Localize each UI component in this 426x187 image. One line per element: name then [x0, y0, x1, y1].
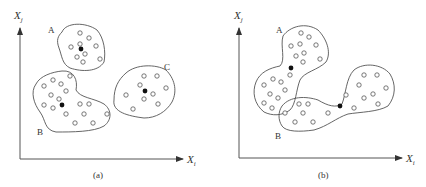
cluster-label: A — [276, 25, 283, 35]
x-axis-label: Xi — [405, 152, 415, 167]
centroid — [79, 47, 84, 52]
data-points-a — [69, 31, 102, 64]
cluster-label: A — [48, 25, 55, 35]
panel-caption: (b) — [318, 170, 329, 180]
cluster-b-boundary — [33, 71, 110, 132]
centroid — [338, 104, 343, 109]
y-axis-label: Xj — [233, 9, 243, 24]
centroid — [60, 103, 65, 108]
cluster-label: B — [37, 127, 43, 137]
y-axis-label: Xj — [13, 9, 23, 24]
panel-a: Xj Xi (a) A B C — [13, 9, 196, 180]
cluster-label: C — [164, 62, 170, 72]
panel-b: Xj Xi (b) A B — [233, 9, 415, 180]
x-axis-label: Xi — [186, 153, 196, 168]
data-points-c — [124, 74, 168, 111]
clustering-diagram: Xj Xi (a) A B C Xj Xi (b) A — [0, 0, 426, 187]
data-points-b — [42, 74, 109, 125]
cluster-label: B — [275, 131, 281, 141]
centroid — [143, 89, 148, 94]
data-points-b — [283, 73, 388, 124]
panel-caption: (a) — [93, 170, 103, 180]
centroid — [289, 66, 294, 71]
